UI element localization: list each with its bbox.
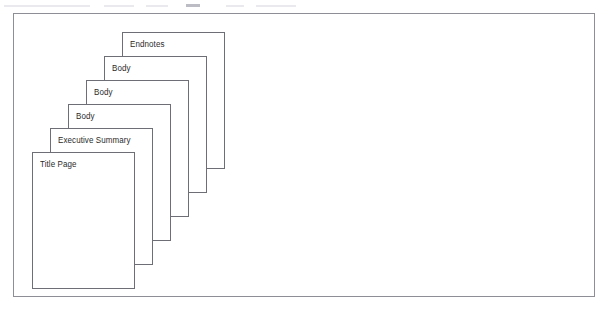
page-stack: EndnotesBodyBodyBodyExecutive SummaryTit… bbox=[14, 14, 596, 298]
page-sheet-label: Body bbox=[112, 63, 131, 74]
sliver-mark bbox=[104, 5, 134, 7]
diagram-frame: EndnotesBodyBodyBodyExecutive SummaryTit… bbox=[13, 13, 595, 297]
sliver-mark bbox=[186, 4, 200, 7]
page-sheet-label: Body bbox=[94, 87, 113, 98]
scan-artifact-top-sliver bbox=[0, 0, 609, 7]
sliver-mark bbox=[146, 5, 168, 7]
sliver-mark bbox=[256, 5, 296, 7]
page-sheet[interactable]: Title Page bbox=[32, 152, 135, 289]
sliver-mark bbox=[226, 5, 244, 7]
page-sheet-label: Title Page bbox=[40, 159, 77, 170]
sliver-mark bbox=[4, 5, 90, 7]
page-sheet-label: Body bbox=[76, 111, 95, 122]
page-sheet-label: Endnotes bbox=[130, 39, 165, 50]
page-sheet-label: Executive Summary bbox=[58, 135, 131, 146]
